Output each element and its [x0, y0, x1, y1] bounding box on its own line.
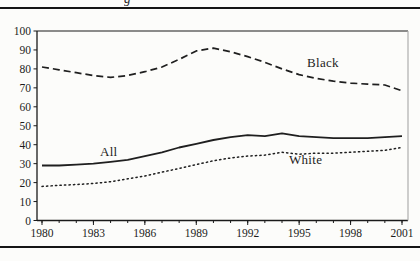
y-tick-label: 100 [14, 25, 32, 37]
x-tick-label: 1986 [133, 227, 156, 239]
series-line-white [42, 148, 402, 187]
y-tick-label: 40 [20, 139, 32, 151]
x-tick-label: 2001 [391, 227, 414, 239]
series-label-white: White [289, 152, 322, 168]
x-tick-label: 1992 [236, 227, 259, 239]
figure-page: g 10090807060504030201001980198319861989… [0, 0, 420, 261]
line-chart: 1009080706050403020100198019831986198919… [0, 0, 420, 261]
y-tick-label: 20 [20, 177, 32, 189]
x-tick-label: 1983 [82, 227, 105, 239]
y-tick-label: 0 [25, 215, 31, 227]
x-tick-label: 1995 [288, 227, 311, 239]
x-tick-label: 1989 [185, 227, 208, 239]
y-tick-label: 30 [20, 158, 32, 170]
x-tick-label: 1998 [339, 227, 362, 239]
series-label-all: All [100, 144, 118, 160]
y-tick-label: 10 [20, 196, 32, 208]
y-tick-label: 60 [20, 101, 32, 113]
y-tick-label: 50 [20, 120, 32, 132]
bottom-rule [0, 246, 420, 248]
series-line-black [42, 48, 402, 91]
series-label-black: Black [307, 55, 339, 71]
y-tick-label: 90 [20, 44, 32, 56]
x-tick-label: 1980 [31, 227, 54, 239]
y-tick-label: 70 [20, 82, 32, 94]
series-line-all [42, 133, 402, 165]
y-tick-label: 80 [20, 63, 32, 75]
